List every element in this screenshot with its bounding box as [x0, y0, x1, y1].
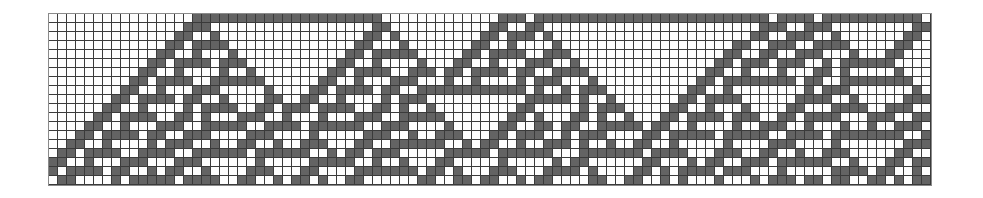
ca-cell — [49, 122, 58, 131]
ca-cell — [49, 77, 58, 86]
ca-cell — [220, 59, 229, 68]
ca-cell — [589, 140, 598, 149]
ca-cell — [283, 122, 292, 131]
ca-cell — [760, 68, 769, 77]
ca-cell — [598, 50, 607, 59]
ca-cell — [805, 32, 814, 41]
ca-cell — [355, 167, 364, 176]
ca-cell — [823, 77, 832, 86]
ca-cell — [202, 68, 211, 77]
ca-cell — [580, 23, 589, 32]
ca-cell — [580, 50, 589, 59]
ca-cell — [319, 32, 328, 41]
ca-cell — [778, 32, 787, 41]
ca-cell — [211, 113, 220, 122]
ca-cell — [328, 59, 337, 68]
ca-cell — [634, 158, 643, 167]
ca-cell — [769, 50, 778, 59]
ca-cell — [598, 131, 607, 140]
ca-cell — [238, 32, 247, 41]
ca-cell — [751, 167, 760, 176]
ca-cell — [256, 140, 265, 149]
ca-cell — [661, 140, 670, 149]
ca-cell — [544, 158, 553, 167]
ca-cell — [562, 86, 571, 95]
ca-cell — [355, 41, 364, 50]
ca-cell — [319, 23, 328, 32]
ca-cell — [94, 149, 103, 158]
ca-cell — [337, 95, 346, 104]
ca-cell — [292, 149, 301, 158]
ca-cell — [661, 50, 670, 59]
ca-cell — [130, 158, 139, 167]
ca-cell — [877, 158, 886, 167]
ca-cell — [85, 113, 94, 122]
ca-cell — [292, 131, 301, 140]
ca-cell — [778, 68, 787, 77]
ca-cell — [778, 158, 787, 167]
ca-cell — [328, 32, 337, 41]
ca-cell — [418, 158, 427, 167]
ca-cell — [355, 14, 364, 23]
ca-cell — [886, 176, 895, 185]
ca-cell — [895, 122, 904, 131]
ca-cell — [445, 14, 454, 23]
ca-cell — [553, 59, 562, 68]
ca-cell — [760, 149, 769, 158]
ca-cell — [760, 167, 769, 176]
ca-cell — [202, 59, 211, 68]
ca-cell — [94, 131, 103, 140]
ca-cell — [310, 113, 319, 122]
ca-cell — [859, 158, 868, 167]
ca-cell — [58, 59, 67, 68]
ca-cell — [868, 59, 877, 68]
ca-cell — [787, 104, 796, 113]
ca-cell — [760, 158, 769, 167]
ca-cell — [166, 77, 175, 86]
ca-cell — [364, 131, 373, 140]
ca-cell — [418, 59, 427, 68]
ca-cell — [805, 95, 814, 104]
ca-cell — [886, 68, 895, 77]
ca-cell — [832, 86, 841, 95]
ca-cell — [373, 167, 382, 176]
ca-cell — [544, 14, 553, 23]
ca-cell — [454, 95, 463, 104]
ca-cell — [400, 113, 409, 122]
ca-cell — [751, 140, 760, 149]
ca-cell — [742, 95, 751, 104]
ca-cell — [481, 32, 490, 41]
ca-cell — [400, 59, 409, 68]
ca-cell — [148, 77, 157, 86]
ca-cell — [148, 50, 157, 59]
ca-cell — [364, 14, 373, 23]
ca-cell — [355, 86, 364, 95]
ca-cell — [562, 68, 571, 77]
ca-cell — [310, 41, 319, 50]
ca-cell — [112, 23, 121, 32]
ca-cell — [130, 113, 139, 122]
ca-cell — [877, 122, 886, 131]
ca-cell — [184, 41, 193, 50]
ca-cell — [364, 176, 373, 185]
ca-cell — [301, 140, 310, 149]
ca-cell — [652, 176, 661, 185]
ca-cell — [670, 41, 679, 50]
ca-cell — [310, 158, 319, 167]
ca-cell — [148, 23, 157, 32]
ca-cell — [877, 68, 886, 77]
ca-cell — [445, 59, 454, 68]
ca-cell — [472, 41, 481, 50]
ca-cell — [337, 50, 346, 59]
ca-cell — [391, 23, 400, 32]
ca-cell — [895, 59, 904, 68]
ca-cell — [121, 68, 130, 77]
ca-cell — [688, 14, 697, 23]
ca-cell — [652, 104, 661, 113]
ca-cell — [715, 149, 724, 158]
ca-cell — [301, 14, 310, 23]
ca-cell — [553, 23, 562, 32]
ca-cell — [778, 140, 787, 149]
ca-cell — [715, 59, 724, 68]
ca-cell — [175, 77, 184, 86]
